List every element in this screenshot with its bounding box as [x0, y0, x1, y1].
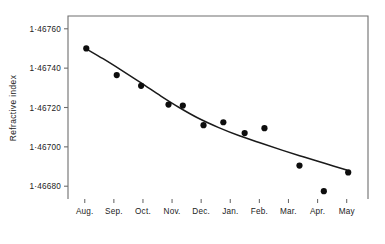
y-tick-label: 1·46720 — [30, 104, 62, 113]
y-axis-title-text: Refractive index — [8, 74, 18, 141]
x-tick-label: Oct. — [135, 207, 151, 216]
x-tick-label: Dec. — [192, 207, 210, 216]
y-tick-label: 1·46740 — [30, 64, 62, 73]
fitted-curve — [86, 49, 346, 170]
y-tick-label: 1·46700 — [30, 143, 62, 152]
y-axis-title: Refractive index — [8, 74, 18, 141]
data-point — [242, 130, 248, 136]
x-axis-tick-labels: Aug.Sep.Oct.Nov.Dec.Jan.Feb.Mar.Apr.May — [76, 207, 355, 216]
data-point — [138, 83, 144, 89]
x-tick-label: May — [339, 207, 356, 216]
data-point — [165, 101, 171, 107]
x-tick-label: Aug. — [76, 207, 94, 216]
data-point — [200, 122, 206, 128]
plot-frame — [68, 16, 368, 199]
data-point — [321, 188, 327, 194]
data-point — [220, 119, 226, 125]
y-axis-ticks — [64, 29, 68, 186]
y-axis-tick-labels: 1·467601·467401·467201·467001·46680 — [30, 25, 62, 191]
data-point — [261, 125, 267, 131]
data-point — [296, 162, 302, 168]
x-tick-label: Apr. — [310, 207, 325, 216]
data-point — [180, 102, 186, 108]
x-tick-label: Nov. — [164, 207, 181, 216]
x-tick-label: Jan. — [222, 207, 238, 216]
x-tick-label: Feb. — [251, 207, 268, 216]
chart-canvas: 1·467601·467401·467201·467001·46680 Aug.… — [0, 0, 385, 244]
x-tick-label: Sep. — [105, 207, 123, 216]
data-points — [83, 45, 351, 194]
x-tick-label: Mar. — [280, 207, 297, 216]
x-axis-ticks — [85, 199, 347, 203]
y-tick-label: 1·46680 — [30, 182, 62, 191]
refractive-index-chart: 1·467601·467401·467201·467001·46680 Aug.… — [0, 0, 385, 244]
data-point — [114, 72, 120, 78]
data-point — [83, 45, 89, 51]
data-point — [345, 169, 351, 175]
y-tick-label: 1·46760 — [30, 25, 62, 34]
